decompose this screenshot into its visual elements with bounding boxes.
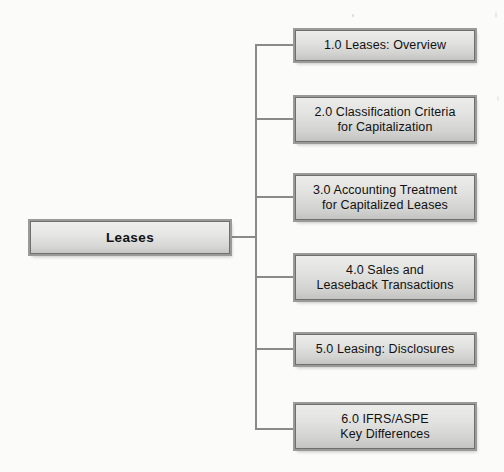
connector-branch-2: [255, 118, 296, 120]
node-topic-2[interactable]: 2.0 Classification Criteria for Capitali…: [295, 97, 475, 142]
node-topic-3-label: 3.0 Accounting Treatment for Capitalized…: [307, 183, 463, 213]
node-topic-2-label: 2.0 Classification Criteria for Capitali…: [309, 105, 462, 135]
speck: [352, 14, 354, 17]
lease-topic-diagram: Leases 1.0 Leases: Overview 2.0 Classifi…: [0, 0, 504, 472]
connector-branch-3: [255, 196, 296, 198]
connector-branch-4: [255, 276, 296, 278]
connector-branch-6: [255, 428, 296, 430]
connector-root-stub: [230, 236, 257, 238]
node-topic-1-label: 1.0 Leases: Overview: [318, 38, 452, 53]
node-root-label: Leases: [100, 230, 160, 245]
connector-branch-5: [255, 348, 296, 350]
node-topic-4[interactable]: 4.0 Sales and Leaseback Transactions: [295, 255, 475, 300]
node-topic-5[interactable]: 5.0 Leasing: Disclosures: [295, 334, 475, 365]
connector-branch-1: [255, 44, 296, 46]
connector-trunk: [255, 44, 257, 430]
node-topic-6[interactable]: 6.0 IFRS/ASPE Key Differences: [295, 404, 475, 449]
node-topic-5-label: 5.0 Leasing: Disclosures: [310, 342, 461, 357]
node-topic-1[interactable]: 1.0 Leases: Overview: [295, 30, 475, 61]
node-topic-3[interactable]: 3.0 Accounting Treatment for Capitalized…: [295, 175, 475, 220]
speck: [497, 96, 499, 101]
node-topic-4-label: 4.0 Sales and Leaseback Transactions: [310, 263, 459, 293]
node-root-leases[interactable]: Leases: [30, 221, 230, 254]
node-topic-6-label: 6.0 IFRS/ASPE Key Differences: [334, 412, 436, 442]
speck: [495, 12, 497, 18]
